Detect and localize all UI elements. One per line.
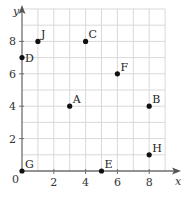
point-marker-icon <box>83 39 88 44</box>
point-marker-icon <box>147 152 152 157</box>
y-tick-label: 8 <box>9 35 16 48</box>
point-marker-icon <box>147 104 152 109</box>
origin-label: 0 <box>12 173 19 186</box>
point-label: A <box>72 93 82 106</box>
y-tick-label: 4 <box>9 100 16 113</box>
point-label: J <box>40 28 45 41</box>
point-marker-icon <box>99 168 104 173</box>
x-tick-label: 6 <box>114 176 121 189</box>
y-axis-label: y <box>12 5 20 18</box>
point-marker-icon <box>67 104 72 109</box>
coordinate-grid-chart: x y 024682468 ABCDEFGHJ <box>0 0 192 201</box>
point-marker-icon <box>19 55 24 60</box>
x-axis-label: x <box>175 175 182 188</box>
x-tick-label: 4 <box>82 176 89 189</box>
point-label: B <box>152 93 160 106</box>
x-tick-label: 8 <box>146 176 153 189</box>
point-marker-icon <box>115 71 120 76</box>
point-label: E <box>105 158 113 171</box>
point-marker-icon <box>19 168 24 173</box>
point-label: G <box>25 158 34 171</box>
y-axis: y <box>12 5 26 171</box>
point-label: C <box>89 28 97 41</box>
point-label: F <box>120 61 128 74</box>
point-label: D <box>25 52 34 65</box>
y-tick-label: 6 <box>9 68 16 81</box>
data-points: ABCDEFGHJ <box>19 28 161 173</box>
point-marker-icon <box>35 39 40 44</box>
point-label: H <box>152 142 162 155</box>
x-tick-label: 2 <box>50 176 57 189</box>
y-tick-label: 2 <box>9 133 16 146</box>
